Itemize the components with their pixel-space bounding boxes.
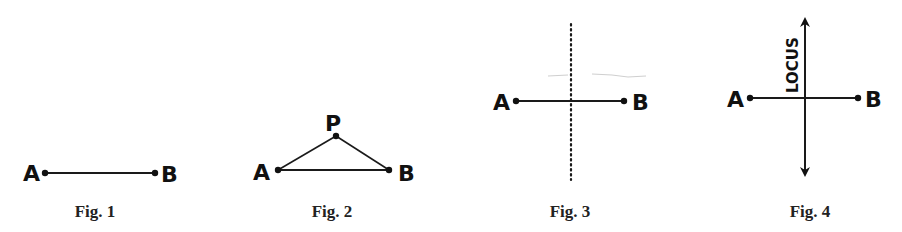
figure-caption: Fig. 1 [75,202,116,221]
point-p-label: P [325,111,341,136]
point-b-dot [386,167,392,173]
figure-4: A B LOCUS Fig. 4 [727,22,882,221]
point-a-dot [275,167,281,173]
point-b-label: B [161,162,178,187]
figure-2: A B P Fig. 2 [253,111,415,221]
figure-1: A B Fig. 1 [23,161,178,221]
point-a-dot [42,170,48,176]
point-b-label: B [398,161,415,186]
point-b-dot [855,95,861,101]
figure-3: A B Fig. 3 [493,24,649,221]
figure-caption: Fig. 4 [790,202,831,221]
point-b-label: B [865,87,882,112]
point-a-label: A [253,160,270,185]
figure-caption: Fig. 3 [550,202,591,221]
point-b-label: B [632,90,649,115]
point-a-label: A [493,90,510,115]
point-a-label: A [727,87,744,112]
point-a-label: A [23,161,40,186]
paper-smudge [548,74,646,77]
point-b-dot [152,170,158,176]
point-b-dot [621,98,627,104]
point-a-dot [513,98,519,104]
locus-figures-diagram: A B Fig. 1 A B P Fig. 2 A B Fig. 3 A B L… [0,0,902,232]
figure-caption: Fig. 2 [312,202,353,221]
segment-pb [336,136,389,170]
point-a-dot [747,95,753,101]
segment-ap [278,136,336,170]
locus-label: LOCUS [784,37,802,93]
